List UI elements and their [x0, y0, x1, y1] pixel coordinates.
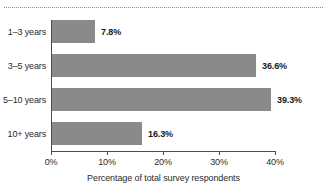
y-axis-label-group: 1–3 years — [0, 20, 46, 43]
bar-5-10-years — [51, 88, 271, 111]
y-axis-label-group: 5–10 years — [0, 88, 46, 111]
y-axis-label-group: 10+ years — [0, 122, 46, 145]
bar-value-label: 16.3% — [148, 129, 173, 139]
bar-3-5-years — [51, 54, 256, 77]
y-axis-tick-label: 5–10 years — [3, 95, 46, 105]
bar-10-plus-years — [51, 122, 142, 145]
bar-value-label: 39.3% — [277, 95, 302, 105]
x-axis-title: Percentage of total survey respondents — [0, 173, 327, 183]
x-axis-tick-label: 30% — [210, 157, 228, 167]
x-axis-tick — [275, 151, 276, 155]
bar-1-3-years — [51, 20, 95, 43]
x-axis-tick-label: 40% — [266, 157, 284, 167]
x-axis-tick — [219, 151, 220, 155]
x-axis-tick-label: 20% — [154, 157, 172, 167]
bar-chart-figure: 1–3 years 3–5 years 5–10 years 10+ years… — [0, 0, 327, 192]
x-axis-tick-label: 0% — [45, 157, 58, 167]
y-axis-tick-label: 1–3 years — [8, 27, 46, 37]
plot-area: 1–3 years 3–5 years 5–10 years 10+ years… — [0, 0, 327, 192]
bar-value-label: 7.8% — [101, 27, 121, 37]
x-axis-tick — [107, 151, 108, 155]
y-axis-label-group: 3–5 years — [0, 54, 46, 77]
y-axis-tick-label: 10+ years — [8, 129, 46, 139]
x-axis-tick — [51, 151, 52, 155]
x-axis-tick — [163, 151, 164, 155]
bar-value-label: 36.6% — [262, 61, 287, 71]
x-axis-tick-label: 10% — [98, 157, 116, 167]
y-axis-tick-label: 3–5 years — [8, 61, 46, 71]
y-axis-line — [51, 20, 52, 151]
